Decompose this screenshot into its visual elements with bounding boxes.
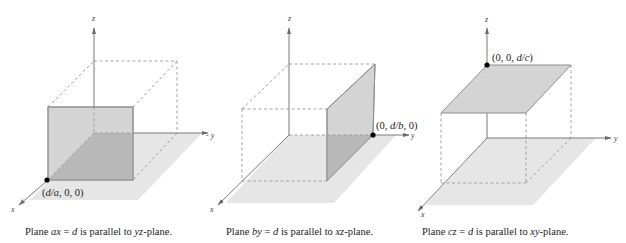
x-axis-label: x	[10, 205, 15, 214]
intercept-label: (0, d/b, 0)	[376, 120, 418, 132]
caption-panel-xz: Plane by = d is parallel to xz-plane.	[226, 226, 373, 237]
intercept-label: (d/a, 0, 0)	[42, 187, 84, 199]
panel-yz: z x (d/a, 0, 0)	[10, 14, 208, 214]
y-axis-label: y	[410, 131, 415, 140]
intercept-point	[484, 62, 489, 67]
z-axis-label: z	[484, 15, 489, 24]
xy-floor-plane	[226, 135, 396, 203]
z-axis-label: z	[91, 14, 96, 23]
neg-y-axis-label: - y	[206, 131, 215, 140]
y-axis-label: y	[613, 134, 618, 143]
caption-panel-xy: Plane cz = d is parallel to xy-plane.	[422, 226, 568, 237]
panel-xy: z y x (0, 0, d/c)	[418, 15, 618, 219]
xy-floor-plane	[425, 138, 596, 205]
x-axis-label: x	[420, 210, 425, 219]
intercept-label: (0, 0, d/c)	[492, 52, 533, 64]
caption-panel-yz: Plane ax = d is parallel to yz-plane.	[25, 226, 172, 237]
panel-xz: z y - y x (0, d/b, 0)	[206, 14, 418, 214]
diagram-canvas: z x (d/a, 0, 0) z y - y x (0, d/b, 0)	[0, 0, 626, 243]
plane-cz-equals-d	[441, 65, 571, 113]
intercept-point	[370, 132, 375, 137]
z-axis-label: z	[287, 14, 292, 23]
x-axis-label: x	[209, 205, 214, 214]
intercept-point	[44, 177, 49, 182]
